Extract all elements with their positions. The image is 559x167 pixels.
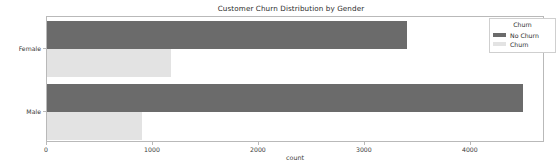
legend-item-no-churn[interactable]: No Churn bbox=[493, 31, 552, 40]
chart-title: Customer Churn Distribution by Gender bbox=[46, 4, 536, 13]
y-tick-label-male: Male bbox=[26, 107, 41, 114]
x-tick-label-4000: 4000 bbox=[462, 146, 478, 153]
x-tick-mark bbox=[258, 142, 259, 145]
x-axis-label: count bbox=[46, 154, 544, 162]
legend-item-churn[interactable]: Churn bbox=[493, 40, 552, 49]
legend-swatch-icon bbox=[493, 33, 506, 38]
bar-male-churn bbox=[47, 112, 142, 140]
chart-figure: Customer Churn Distribution by Gender Ge… bbox=[0, 0, 559, 167]
legend-label: Churn bbox=[510, 41, 529, 48]
y-tick-label-female: Female bbox=[19, 44, 41, 51]
x-tick-label-0: 0 bbox=[44, 146, 48, 153]
y-axis-ticks: FemaleMale bbox=[0, 16, 46, 142]
legend-entries: No ChurnChurn bbox=[493, 31, 552, 49]
x-tick-label-3000: 3000 bbox=[356, 146, 372, 153]
legend-label: No Churn bbox=[510, 32, 539, 39]
x-tick-label-2000: 2000 bbox=[250, 146, 266, 153]
x-tick-mark bbox=[364, 142, 365, 145]
x-tick-mark bbox=[470, 142, 471, 145]
x-tick-mark bbox=[46, 142, 47, 145]
bar-male-no-churn bbox=[47, 84, 523, 112]
bar-female-no-churn bbox=[47, 21, 407, 49]
legend-swatch-icon bbox=[493, 42, 506, 47]
plot-area bbox=[46, 16, 544, 142]
bar-female-churn bbox=[47, 49, 171, 77]
legend-title: Churn bbox=[493, 21, 552, 29]
x-tick-mark bbox=[152, 142, 153, 145]
x-tick-label-1000: 1000 bbox=[144, 146, 160, 153]
legend: Churn No ChurnChurn bbox=[489, 18, 556, 53]
